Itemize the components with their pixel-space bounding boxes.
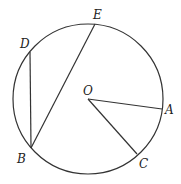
- segment-oc: [88, 99, 137, 154]
- label-o: O: [83, 84, 93, 98]
- label-c: C: [139, 157, 148, 171]
- segment-oa: [88, 99, 162, 109]
- label-d: D: [19, 37, 30, 51]
- segment-db: [30, 52, 31, 148]
- label-e: E: [92, 8, 102, 22]
- label-b: B: [16, 152, 26, 166]
- label-a: A: [164, 103, 174, 117]
- circle-diagram: O A B C D E: [0, 0, 181, 184]
